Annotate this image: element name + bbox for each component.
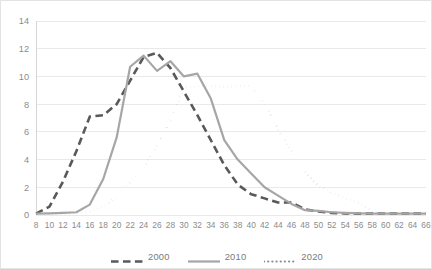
x-axis-tick-label: 10 [45, 220, 55, 230]
x-axis-tick-label: 30 [179, 220, 189, 230]
x-axis-tick-label: 34 [206, 220, 216, 230]
x-axis-tick-label: 58 [368, 220, 378, 230]
chart-plot-area: 02468101214 8101214161820222426283032343… [1, 1, 432, 269]
x-axis-tick-label: 52 [327, 220, 337, 230]
legend-label-2020: 2020 [301, 251, 323, 262]
y-axis-tick-label: 2 [24, 183, 29, 193]
x-axis-tick-label: 46 [287, 220, 297, 230]
legend-swatch-2000 [111, 252, 143, 261]
chart-legend: 200020102020 [1, 251, 432, 262]
x-axis-tick-label: 24 [139, 220, 149, 230]
x-axis-tick-label: 14 [72, 220, 82, 230]
chart-container: 02468101214 8101214161820222426283032343… [0, 0, 432, 269]
x-axis-tick-label: 20 [112, 220, 122, 230]
x-axis-tick-label: 28 [166, 220, 176, 230]
x-axis-tick-label: 42 [260, 220, 270, 230]
x-axis-tick-label: 32 [193, 220, 203, 230]
x-axis-tick-label: 48 [300, 220, 310, 230]
series-line-2010 [36, 56, 426, 214]
x-axis-tick-label: 16 [85, 220, 95, 230]
x-axis-tick-label: 8 [34, 220, 39, 230]
legend-item-2000[interactable]: 2000 [111, 251, 170, 262]
x-axis-tick-label: 26 [152, 220, 162, 230]
y-axis-tick-label: 6 [24, 127, 29, 137]
legend-label-2010: 2010 [225, 251, 247, 262]
x-axis-tick-label: 22 [125, 220, 135, 230]
x-axis-tick-label: 64 [408, 220, 418, 230]
y-axis-tick-label: 4 [24, 155, 29, 165]
x-axis-tick-label: 54 [341, 220, 351, 230]
y-axis-tick-label: 14 [19, 16, 29, 26]
legend-swatch-2020 [264, 252, 296, 261]
legend-item-2010[interactable]: 2010 [188, 251, 247, 262]
x-axis-tick-label: 66 [421, 220, 431, 230]
x-axis-tick-label: 50 [314, 220, 324, 230]
x-axis-tick-label: 12 [58, 220, 68, 230]
x-axis-labels: 8101214161820222426283032343638404244464… [34, 220, 431, 230]
series-line-2000 [36, 53, 426, 214]
x-axis-tick-label: 38 [233, 220, 243, 230]
data-series [36, 53, 426, 214]
x-axis-tick-label: 36 [220, 220, 230, 230]
x-axis-tick-label: 44 [273, 220, 283, 230]
legend-label-2000: 2000 [148, 251, 170, 262]
x-axis-tick-label: 56 [354, 220, 364, 230]
y-axis-labels: 02468101214 [19, 16, 29, 220]
y-axis-tick-label: 12 [19, 44, 29, 54]
y-axis-tick-label: 10 [19, 72, 29, 82]
legend-swatch-2010 [188, 252, 220, 261]
x-axis-tick-label: 18 [99, 220, 109, 230]
legend-item-2020[interactable]: 2020 [264, 251, 323, 262]
x-axis-tick-label: 60 [381, 220, 391, 230]
x-axis-tick-label: 40 [247, 220, 257, 230]
gridlines [36, 21, 426, 215]
y-axis-tick-label: 8 [24, 100, 29, 110]
y-axis-tick-label: 0 [24, 210, 29, 220]
x-axis-tick-label: 62 [394, 220, 404, 230]
